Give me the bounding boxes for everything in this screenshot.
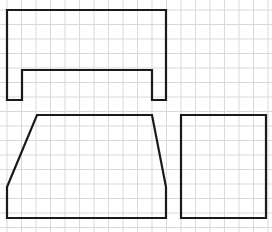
top-bracket-shape (7, 10, 166, 100)
grid-diagram (0, 0, 272, 232)
trapezoid-shape (7, 115, 166, 218)
